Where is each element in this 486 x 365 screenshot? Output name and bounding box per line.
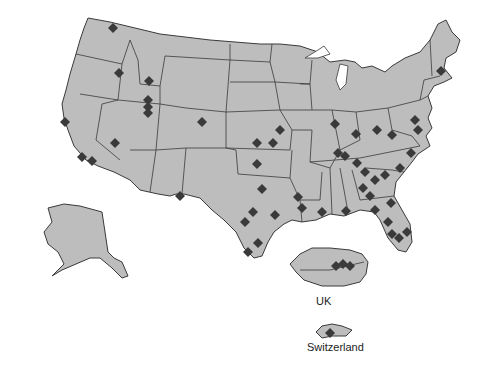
uk-label: UK xyxy=(316,295,331,307)
alaska xyxy=(44,204,128,278)
uk xyxy=(290,248,368,286)
usa-contiguous xyxy=(62,18,460,258)
switzerland xyxy=(316,324,352,338)
map-canvas xyxy=(0,0,486,365)
switzerland-label: Switzerland xyxy=(307,341,364,353)
usa-landmass xyxy=(62,18,460,258)
